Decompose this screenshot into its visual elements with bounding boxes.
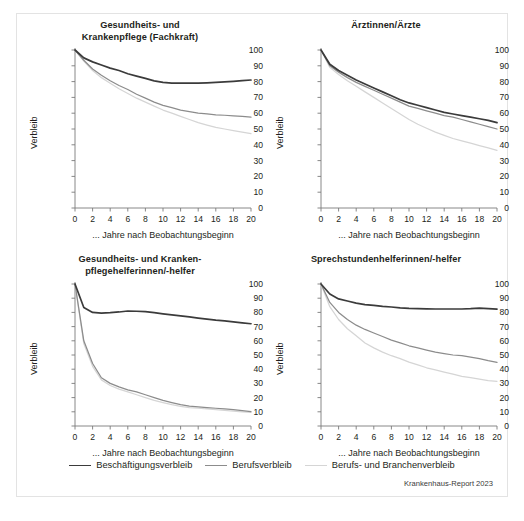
- series-line-2: [75, 50, 251, 134]
- series-line-2: [75, 284, 251, 412]
- legend-label: Berufsverbleib: [232, 460, 291, 470]
- plot-area-1: [263, 18, 509, 252]
- series-line-2: [321, 50, 497, 150]
- legend-line-swatch: [305, 465, 327, 466]
- legend-line-swatch: [69, 465, 91, 466]
- series-line-0: [75, 284, 251, 324]
- plot-area-3: [263, 252, 509, 470]
- series-line-0: [321, 284, 497, 309]
- series-line-1: [321, 284, 497, 362]
- chart-panel-0: Gesundheits- und Krankenpflege (Fachkraf…: [17, 18, 263, 252]
- legend-item-0[interactable]: Beschäftigungsverbleib: [69, 460, 192, 470]
- legend-label: Berufs- und Branchenverbleib: [332, 460, 455, 470]
- series-line-1: [75, 284, 251, 412]
- series-line-1: [75, 50, 251, 117]
- plot-area-2: [17, 252, 263, 470]
- plot-area-0: [17, 18, 263, 252]
- series-line-0: [321, 50, 497, 123]
- legend-item-1[interactable]: Berufsverbleib: [205, 460, 291, 470]
- chart-panel-1: Ärztinnen/ÄrzteVerbleib... Jahre nach Be…: [263, 18, 509, 252]
- legend-item-2[interactable]: Berufs- und Branchenverbleib: [305, 460, 455, 470]
- legend-line-swatch: [205, 465, 227, 466]
- series-line-2: [321, 284, 497, 381]
- legend-label: Beschäftigungsverbleib: [96, 460, 192, 470]
- chart-panel-3: Sprechstundenhelferinnen/-helferVerbleib…: [263, 252, 509, 470]
- chart-panel-2: Gesundheits- und Kranken- pflegehelferin…: [17, 252, 263, 470]
- legend: BeschäftigungsverbleibBerufsverbleibBeru…: [17, 460, 507, 470]
- figure-panel: Gesundheits- und Krankenpflege (Fachkraf…: [16, 13, 508, 497]
- source-credit: Krankenhaus-Report 2023: [404, 479, 493, 488]
